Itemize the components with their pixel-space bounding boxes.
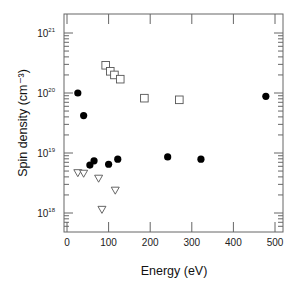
marker-filled-circle bbox=[105, 161, 112, 168]
marker-open-triangle bbox=[80, 170, 88, 177]
marker-filled-circle bbox=[164, 153, 171, 160]
x-tick-label: 500 bbox=[267, 237, 284, 248]
x-tick-label: 200 bbox=[142, 237, 159, 248]
marker-open-square bbox=[176, 96, 184, 104]
x-axis-title: Energy (eV) bbox=[141, 264, 208, 278]
marker-open-square bbox=[116, 75, 124, 83]
marker-filled-circle bbox=[80, 112, 87, 119]
marker-filled-circle bbox=[197, 156, 204, 163]
y-tick-label: 1021 bbox=[37, 27, 55, 39]
x-tick-label: 400 bbox=[225, 237, 242, 248]
y-tick-label: 1020 bbox=[37, 87, 55, 99]
marker-open-triangle bbox=[98, 206, 106, 213]
plot-frame bbox=[64, 14, 283, 232]
y-tick-label: 1018 bbox=[37, 207, 55, 219]
y-tick-label: 1019 bbox=[37, 147, 55, 159]
marker-open-triangle bbox=[95, 175, 103, 182]
data-points bbox=[74, 61, 270, 213]
y-axis-ticks: 1018101910201021 bbox=[37, 27, 283, 226]
marker-open-triangle bbox=[111, 187, 119, 194]
marker-open-square bbox=[141, 94, 149, 102]
marker-filled-circle bbox=[90, 157, 97, 164]
x-axis-ticks: 0100200300400500 bbox=[64, 14, 284, 248]
x-tick-label: 100 bbox=[100, 237, 117, 248]
scatter-chart: 0100200300400500 1018101910201021 Energy… bbox=[0, 0, 295, 290]
marker-filled-circle bbox=[74, 89, 81, 96]
axes-box bbox=[64, 14, 283, 232]
x-tick-label: 300 bbox=[183, 237, 200, 248]
marker-filled-circle bbox=[262, 93, 269, 100]
y-axis-title: Spin density (cm⁻³) bbox=[16, 69, 30, 177]
marker-filled-circle bbox=[114, 156, 121, 163]
x-tick-label: 0 bbox=[64, 237, 70, 248]
